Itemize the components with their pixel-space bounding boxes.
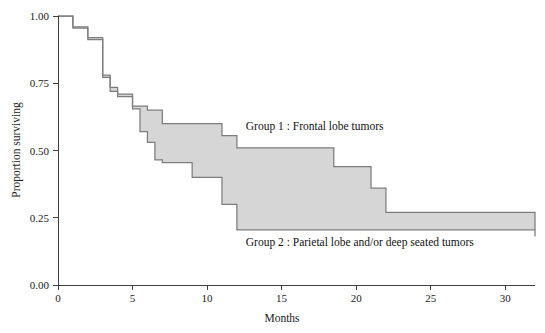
x-axis-title: Months bbox=[264, 312, 300, 324]
x-tick-label: 10 bbox=[202, 292, 214, 304]
group-2-label: Group 2 : Parietal lobe and/or deep seat… bbox=[246, 236, 475, 249]
y-axis-title: Proportion surviving bbox=[10, 102, 23, 198]
x-axis-ticks: 051015202530 bbox=[55, 285, 511, 304]
y-tick-label: 0.50 bbox=[30, 145, 50, 157]
x-tick-label: 25 bbox=[425, 292, 437, 304]
kaplan-meier-chart: 0.000.250.500.751.00 051015202530 Propor… bbox=[0, 0, 545, 333]
group-1-label: Group 1 : Frontal lobe tumors bbox=[246, 120, 384, 133]
y-tick-label: 0.00 bbox=[30, 279, 50, 291]
x-tick-label: 0 bbox=[55, 292, 61, 304]
x-tick-label: 5 bbox=[130, 292, 136, 304]
x-tick-label: 30 bbox=[500, 292, 512, 304]
x-tick-label: 15 bbox=[276, 292, 288, 304]
y-axis-ticks: 0.000.250.500.751.00 bbox=[30, 10, 58, 291]
x-tick-label: 20 bbox=[351, 292, 363, 304]
y-tick-label: 0.75 bbox=[30, 77, 50, 89]
y-tick-label: 0.25 bbox=[30, 212, 50, 224]
survival-curve-figure: 0.000.250.500.751.00 051015202530 Propor… bbox=[0, 0, 545, 333]
y-tick-label: 1.00 bbox=[30, 10, 50, 22]
